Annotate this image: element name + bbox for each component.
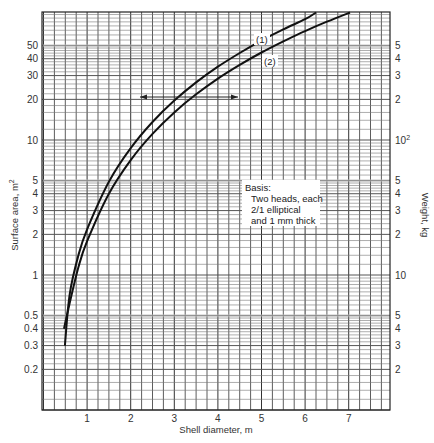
y-tick-label: 1 bbox=[32, 270, 38, 281]
y-axis-right-ticks: 54321025432105432 bbox=[395, 40, 410, 375]
y2-tick-label: 3 bbox=[395, 205, 401, 216]
chart: 5040302010543210.50.40.30.2 543210254321… bbox=[0, 0, 434, 443]
y-tick-label: 40 bbox=[27, 53, 39, 64]
y2-tick-label: 2 bbox=[395, 94, 401, 105]
x-tick-label: 1 bbox=[84, 413, 90, 424]
y2-tick-label: 3 bbox=[395, 70, 401, 81]
y-tick-label: 20 bbox=[27, 94, 39, 105]
x-tick-label: 6 bbox=[302, 413, 308, 424]
y-tick-label: 2 bbox=[32, 229, 38, 240]
arrow-left-icon bbox=[140, 95, 147, 100]
basis-line-3: and 1 mm thick bbox=[251, 215, 316, 226]
basis-line-2: 2/1 elliptical bbox=[251, 204, 301, 215]
y-tick-label: 0.2 bbox=[24, 364, 38, 375]
basis-title: Basis: bbox=[245, 182, 271, 193]
y2-tick-label: 10 bbox=[395, 270, 407, 281]
x-axis-title: Shell diameter, m bbox=[179, 424, 252, 435]
y2-tick-label: 5 bbox=[395, 40, 401, 51]
y-tick-label: 0.3 bbox=[24, 340, 38, 351]
y2-tick-label: 5 bbox=[395, 175, 401, 186]
y-tick-label: 50 bbox=[27, 40, 39, 51]
x-axis-ticks: 1234567 bbox=[84, 413, 352, 424]
y2-tick-label: 4 bbox=[395, 323, 401, 334]
y-axis-right-title: Weight, kg bbox=[420, 193, 431, 238]
x-tick-label: 2 bbox=[128, 413, 134, 424]
y2-tick-label: 2 bbox=[395, 364, 401, 375]
y-tick-label: 4 bbox=[32, 188, 38, 199]
y-tick-label: 10 bbox=[27, 135, 39, 146]
basis-line-1: Two heads, each bbox=[251, 193, 323, 204]
y-tick-label: 3 bbox=[32, 205, 38, 216]
curve-1-label: (1) bbox=[256, 34, 268, 45]
y2-tick-label: 2 bbox=[395, 229, 401, 240]
y2-tick-label: 4 bbox=[395, 53, 401, 64]
y-tick-label: 5 bbox=[32, 175, 38, 186]
y-tick-label: 30 bbox=[27, 70, 39, 81]
y2-tick-label: 3 bbox=[395, 340, 401, 351]
basis-note: Basis: Two heads, each 2/1 elliptical an… bbox=[242, 180, 323, 226]
y-axis-left-ticks: 5040302010543210.50.40.30.2 bbox=[24, 40, 38, 375]
y-tick-label: 0.5 bbox=[24, 310, 38, 321]
y-axis-left-title: Surface area, m2 bbox=[8, 179, 20, 251]
x-tick-label: 4 bbox=[215, 413, 221, 424]
x-tick-label: 3 bbox=[172, 413, 178, 424]
y2-tick-label: 5 bbox=[395, 310, 401, 321]
arrow-right-icon bbox=[231, 95, 238, 100]
y2-tick-label: 102 bbox=[395, 134, 410, 146]
x-tick-label: 7 bbox=[346, 413, 352, 424]
y2-tick-label: 4 bbox=[395, 188, 401, 199]
x-tick-label: 5 bbox=[259, 413, 265, 424]
y-tick-label: 0.4 bbox=[24, 323, 38, 334]
curve-2-label: (2) bbox=[264, 56, 276, 67]
